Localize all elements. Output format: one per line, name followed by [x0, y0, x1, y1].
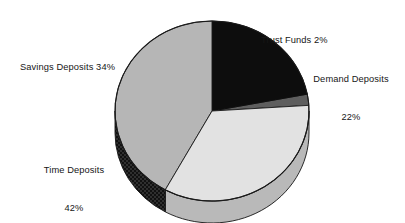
- pie-label-time-deposits-name: Time Deposits: [33, 164, 115, 177]
- pie-label-demand-deposits: Demand Deposits 22%: [303, 48, 399, 148]
- pie-label-demand-deposits-name: Demand Deposits: [303, 73, 399, 86]
- pie-chart: Trust Funds 2% Demand Deposits 22% Savin…: [0, 0, 405, 223]
- pie-label-time-deposits: Time Deposits 42%: [33, 139, 115, 223]
- pie-label-time-deposits-value: 42%: [33, 202, 115, 215]
- pie-label-demand-deposits-value: 22%: [303, 111, 399, 124]
- pie-label-savings-deposits-text: Savings Deposits 34%: [20, 61, 115, 74]
- pie-label-savings-deposits: Savings Deposits 34%: [20, 36, 115, 99]
- pie-label-trust-funds-text: Trust Funds 2%: [261, 34, 328, 47]
